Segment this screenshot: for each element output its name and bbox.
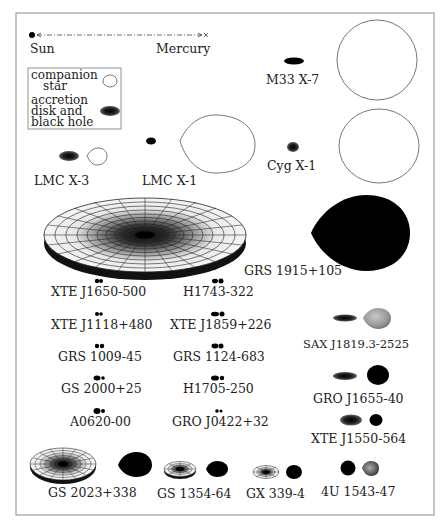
system-saxj1819: SAX J1819.3-2525 — [303, 308, 409, 351]
system-grs1124: GRS 1124-683 — [173, 344, 265, 365]
accretion-disk-icon — [212, 279, 218, 284]
system-gs2023: GS 2023+338 — [30, 448, 152, 500]
companion-star-icon — [101, 409, 105, 413]
accretion-disk-icon — [94, 376, 101, 381]
legend-companion-line2: star — [43, 79, 67, 93]
accretion-disk-icon — [30, 448, 96, 484]
system-label: XTE J1859+226 — [170, 317, 272, 332]
system-label: GRO J1655-40 — [313, 391, 404, 406]
accretion-disk-icon — [44, 198, 246, 280]
system-label: XTE J1550-564 — [311, 431, 406, 446]
system-cygx1: Cyg X-1 — [267, 109, 419, 183]
companion-star-icon — [362, 461, 379, 476]
system-label: GX 339-4 — [246, 486, 305, 501]
mercury-label: Mercury — [156, 41, 211, 56]
system-label: XTE J1650-500 — [51, 284, 146, 299]
accretion-disk-icon — [95, 312, 99, 316]
accretion-disk-icon — [95, 344, 99, 348]
system-label: Cyg X-1 — [267, 158, 316, 173]
system-xtej1550: XTE J1550-564 — [311, 414, 406, 446]
system-label: 4U 1543-47 — [321, 484, 395, 499]
system-h1705: H1705-250 — [183, 375, 254, 396]
companion-star-icon — [118, 452, 152, 477]
accretion-disk-icon — [100, 106, 120, 116]
system-label: GS 1354-64 — [157, 486, 232, 501]
system-grs1009: GRS 1009-45 — [58, 344, 142, 364]
companion-star-icon — [339, 109, 419, 183]
system-lmcx3: LMC X-3 — [34, 148, 107, 188]
mercury-x-icon — [204, 33, 208, 37]
system-label: M33 X-7 — [266, 72, 319, 87]
system-h1743: H1743-322 — [183, 279, 254, 300]
system-label: GS 2023+338 — [48, 485, 137, 500]
system-label: A0620-00 — [69, 414, 131, 429]
legend: companion star accretion disk and black … — [28, 68, 121, 129]
accretion-disk-icon — [341, 461, 356, 476]
system-label: H1743-322 — [183, 284, 254, 299]
accretion-disk-icon — [215, 409, 219, 413]
sun-dot-icon — [29, 32, 35, 38]
accretion-disk-icon — [212, 344, 219, 349]
companion-star-icon — [220, 376, 224, 380]
system-label: GRS 1009-45 — [58, 349, 142, 364]
system-groj1655: GRO J1655-40 — [313, 365, 404, 406]
system-label: XTE J1118+480 — [51, 317, 153, 332]
system-label: GRO J0422+32 — [172, 414, 269, 429]
accretion-disk-icon — [340, 415, 362, 426]
companion-star-icon — [286, 465, 302, 479]
accretion-disk-icon — [333, 315, 357, 322]
companion-star-icon — [87, 148, 107, 165]
companion-star-icon — [180, 115, 255, 173]
companion-star-icon — [101, 376, 105, 380]
system-lmcx1: LMC X-1 — [142, 115, 255, 188]
system-label: SAX J1819.3-2525 — [303, 337, 409, 351]
legend-disk-line3: black hole — [31, 115, 93, 129]
system-label: LMC X-3 — [34, 173, 89, 188]
system-gx339: GX 339-4 — [246, 465, 305, 501]
accretion-disk-icon — [253, 466, 279, 479]
system-label: H1705-250 — [183, 381, 254, 396]
companion-star-icon — [367, 365, 389, 385]
system-m33x7: M33 X-7 — [266, 20, 417, 100]
system-groj0422: GRO J0422+32 — [172, 409, 269, 429]
system-gs2000: GS 2000+25 — [61, 376, 142, 397]
companion-star-icon — [99, 312, 103, 316]
system-gs1354: GS 1354-64 — [157, 461, 232, 501]
system-xtej1859: XTE J1859+226 — [170, 312, 272, 333]
companion-star-icon — [206, 461, 228, 477]
accretion-disk-icon — [95, 279, 99, 283]
accretion-disk-icon — [211, 312, 219, 317]
companion-star-icon — [370, 414, 383, 426]
scale-bar: Sun Mercury — [29, 32, 211, 56]
companion-star-icon — [100, 344, 104, 348]
companion-star-icon — [311, 195, 410, 271]
system-a0620: A0620-00 — [69, 408, 131, 429]
companion-star-icon — [219, 344, 224, 349]
companion-star-icon — [220, 410, 223, 413]
system-grs1915: GRS 1915+105 — [44, 195, 410, 280]
companion-star-icon — [99, 279, 103, 283]
accretion-disk-icon — [164, 462, 196, 480]
companion-star-icon — [337, 20, 417, 100]
accretion-disk-icon — [59, 151, 79, 161]
accretion-disk-icon — [146, 138, 156, 145]
accretion-disk-icon — [287, 142, 299, 152]
black-hole-binaries-diagram: Sun Mercury companion star accretion dis… — [0, 0, 448, 532]
companion-star-icon — [219, 279, 224, 284]
accretion-disk-icon — [211, 375, 219, 380]
accretion-disk-icon — [284, 58, 304, 65]
system-label: LMC X-1 — [142, 173, 197, 188]
system-xtej1650: XTE J1650-500 — [51, 279, 146, 299]
companion-star-icon — [103, 75, 117, 87]
companion-star-icon — [220, 312, 225, 317]
sun-label: Sun — [30, 41, 55, 56]
system-xtej1118: XTE J1118+480 — [51, 312, 153, 332]
companion-star-icon — [363, 308, 391, 329]
system-label: GRS 1915+105 — [244, 263, 342, 278]
accretion-disk-icon — [333, 372, 357, 380]
system-label: GRS 1124-683 — [173, 349, 265, 364]
system-4u1543: 4U 1543-47 — [321, 461, 395, 500]
system-label: GS 2000+25 — [61, 381, 142, 396]
